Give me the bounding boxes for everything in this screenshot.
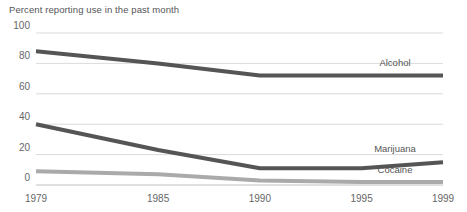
y-tick-label: 20: [19, 142, 31, 153]
series-label-cocaine: Cocaine: [378, 164, 413, 175]
x-tick-label: 1985: [147, 193, 170, 204]
x-tick-label: 1990: [249, 193, 272, 204]
x-axis-tick-labels: 19791985199019951999: [25, 193, 455, 204]
data-series: [36, 51, 443, 182]
x-tick-label: 1999: [432, 193, 455, 204]
y-tick-label: 0: [24, 172, 30, 183]
line-chart-plot: 020406080100 19791985199019951999 Alcoho…: [0, 0, 467, 212]
x-tick-label: 1995: [350, 193, 373, 204]
series-label-marijuana: Marijuana: [374, 143, 416, 154]
y-axis-tick-labels: 020406080100: [13, 20, 30, 183]
y-tick-label: 40: [19, 111, 31, 122]
y-tick-label: 60: [19, 81, 31, 92]
x-tick-label: 1979: [25, 193, 48, 204]
series-label-alcohol: Alcohol: [379, 57, 410, 68]
y-tick-label: 100: [13, 20, 30, 31]
chart-container: Percent reporting use in the past month …: [0, 0, 467, 212]
y-tick-label: 80: [19, 50, 31, 61]
